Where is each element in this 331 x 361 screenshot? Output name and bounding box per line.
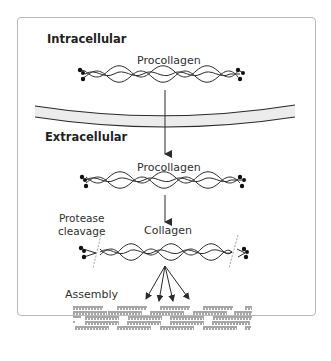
collagen-triple-helix-cleaved bbox=[79, 244, 249, 261]
procollagen-triple-helix-extracellular bbox=[80, 172, 246, 189]
label-assembly: Assembly bbox=[65, 289, 118, 300]
label-extracellular: Extracellular bbox=[45, 132, 127, 144]
label-procollagen-extracellular: Procollagen bbox=[137, 162, 201, 173]
label-collagen: Collagen bbox=[144, 225, 192, 236]
label-intracellular: Intracellular bbox=[47, 34, 126, 46]
collagen-fibril bbox=[73, 307, 252, 329]
label-procollagen-intracellular: Procollagen bbox=[137, 55, 201, 66]
assembly-arrows bbox=[146, 266, 189, 301]
procollagen-triple-helix-intracellular bbox=[78, 66, 245, 83]
label-protease-line2: cleavage bbox=[58, 225, 105, 238]
label-protease-cleavage: Protease cleavage bbox=[58, 212, 105, 238]
label-protease-line1: Protease bbox=[58, 212, 105, 225]
cleavage-site-left bbox=[93, 235, 101, 268]
